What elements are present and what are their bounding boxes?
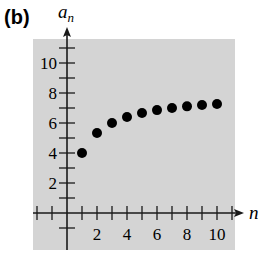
svg-text:2: 2 [93,225,102,244]
data-point [197,100,207,110]
data-point [77,148,87,158]
chart-figure: (b) 246810246810 an n [0,0,264,257]
data-point [107,118,117,128]
data-point [182,101,192,111]
svg-text:8: 8 [49,84,58,103]
data-point [137,108,147,118]
plot-area [33,39,235,250]
svg-text:10: 10 [209,225,226,244]
data-point [92,128,102,138]
x-axis-label: n [249,202,259,223]
data-point [212,99,222,109]
svg-text:6: 6 [49,114,58,133]
data-point [167,103,177,113]
y-axis-label: an [58,1,74,25]
data-point [122,112,132,122]
svg-text:10: 10 [40,54,57,73]
svg-text:4: 4 [123,225,132,244]
svg-text:2: 2 [49,174,58,193]
svg-text:4: 4 [49,144,58,163]
data-point [152,105,162,115]
panel-label: (b) [4,6,30,28]
svg-text:8: 8 [183,225,192,244]
svg-text:6: 6 [153,225,162,244]
